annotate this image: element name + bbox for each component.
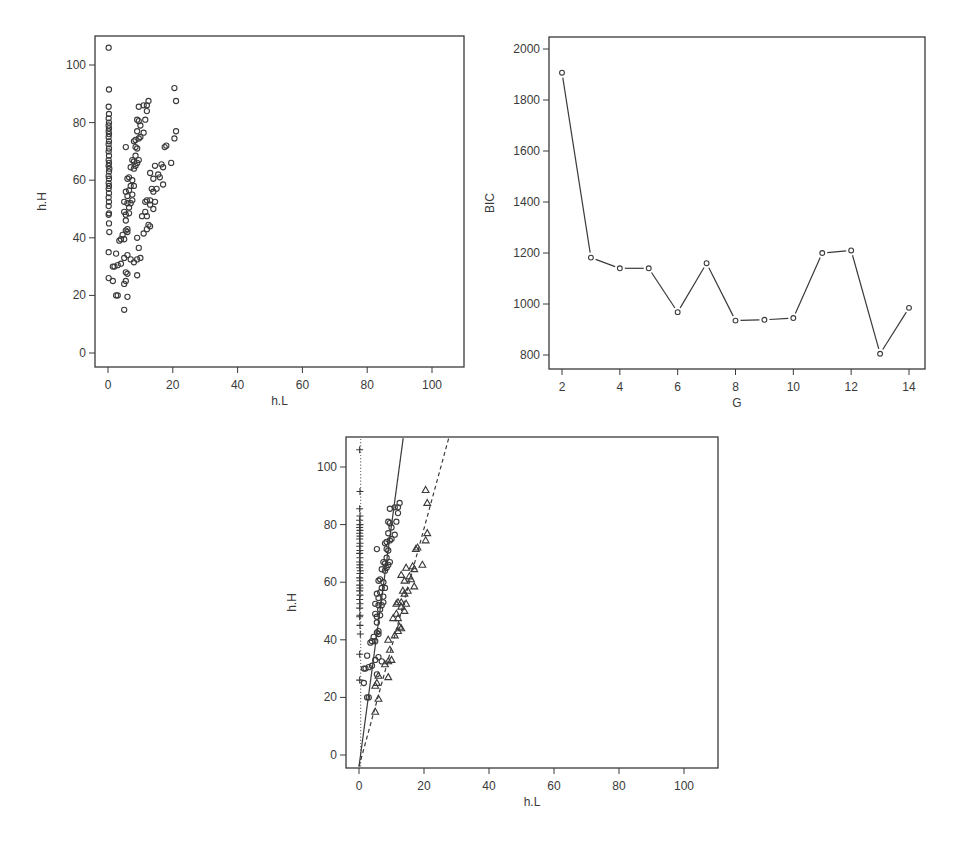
x-tick-label: 40	[231, 378, 245, 392]
data-point-circle	[131, 260, 136, 265]
y-tick-label: 80	[324, 518, 338, 532]
data-point-triangle	[422, 537, 429, 543]
bic-line-segment	[795, 258, 820, 314]
y-tick-label: 800	[520, 348, 540, 362]
data-point-circle	[791, 316, 796, 321]
bic-line-segment	[853, 255, 879, 349]
data-point-triangle	[375, 672, 382, 678]
data-point-circle	[374, 546, 379, 551]
x-tick-label: 60	[296, 378, 310, 392]
x-tick-label: 0	[356, 779, 363, 793]
x-tick-label: 8	[732, 380, 739, 394]
data-point-circle	[152, 163, 157, 168]
data-point-circle	[675, 310, 680, 315]
data-point-circle	[143, 117, 148, 122]
data-point-plus	[356, 622, 363, 629]
x-tick-label: 20	[417, 779, 431, 793]
data-point-triangle	[424, 499, 431, 505]
data-point-circle	[135, 273, 140, 278]
y-axis-label: h.H	[35, 192, 49, 211]
y-tick-label: 0	[330, 748, 337, 762]
data-point-circle	[135, 235, 140, 240]
data-point-circle	[169, 160, 174, 165]
bic-line-segment	[740, 320, 759, 321]
data-point-circle	[172, 136, 177, 141]
data-point-circle	[114, 251, 119, 256]
data-point-plus	[356, 651, 363, 658]
y-axis-label: BIC	[483, 193, 497, 213]
data-point-circle	[379, 567, 384, 572]
data-point-circle	[160, 182, 165, 187]
data-point-triangle	[424, 530, 431, 536]
scatter-raw-plot: 020406080100020406080100h.Lh.H	[0, 0, 480, 420]
y-tick-label: 60	[324, 575, 338, 589]
x-tick-label: 80	[361, 378, 375, 392]
data-point-triangle	[422, 486, 429, 492]
x-tick-label: 60	[547, 779, 561, 793]
y-tick-label: 20	[73, 288, 87, 302]
chart-bic-curve: 2468101214800100012001400160018002000GBI…	[480, 0, 954, 420]
x-tick-label: 20	[166, 378, 180, 392]
data-point-circle	[151, 176, 156, 181]
bic-line-segment	[563, 78, 590, 253]
data-point-plus	[356, 605, 363, 612]
data-point-circle	[106, 45, 111, 50]
data-point-circle	[106, 250, 111, 255]
y-tick-label: 1200	[513, 246, 540, 260]
x-axis-label: h.L	[524, 795, 541, 809]
data-point-circle	[106, 104, 111, 109]
data-point-triangle	[385, 636, 392, 642]
data-point-circle	[907, 305, 912, 310]
data-point-circle	[849, 248, 854, 253]
y-tick-label: 1400	[513, 195, 540, 209]
data-point-triangle	[390, 615, 397, 621]
y-tick-label: 0	[79, 346, 86, 360]
data-point-plus	[357, 631, 364, 638]
data-point-triangle	[419, 561, 426, 567]
bic-line-segment	[769, 318, 788, 319]
data-point-circle	[173, 129, 178, 134]
y-tick-label: 100	[66, 58, 86, 72]
x-tick-label: 6	[674, 380, 681, 394]
data-point-circle	[123, 218, 128, 223]
bic-line-segment	[709, 268, 733, 316]
data-point-circle	[365, 653, 370, 658]
data-point-circle	[122, 255, 127, 260]
y-tick-label: 1800	[513, 93, 540, 107]
y-tick-label: 20	[324, 690, 338, 704]
bic-line-segment	[596, 259, 616, 266]
data-point-circle	[138, 255, 143, 260]
data-point-triangle	[411, 583, 418, 589]
data-point-circle	[394, 519, 399, 524]
data-point-circle	[646, 266, 651, 271]
data-point-circle	[148, 170, 153, 175]
x-tick-label: 10	[787, 380, 801, 394]
data-point-circle	[617, 266, 622, 271]
data-point-circle	[152, 199, 157, 204]
data-point-circle	[131, 183, 136, 188]
x-axis-label: h.L	[271, 394, 288, 408]
y-tick-label: 1000	[513, 297, 540, 311]
bic-line-segment	[680, 268, 704, 308]
x-tick-label: 40	[482, 779, 496, 793]
data-point-plus	[356, 505, 363, 512]
x-axis-label: G	[732, 396, 741, 410]
data-point-circle	[110, 278, 115, 283]
data-point-circle	[106, 87, 111, 92]
data-point-circle	[704, 261, 709, 266]
x-tick-label: 80	[612, 779, 626, 793]
x-tick-label: 14	[902, 380, 916, 394]
scatter-clustered-plot: 020406080100020406080100h.Lh.H	[270, 420, 730, 844]
data-point-circle	[151, 206, 156, 211]
data-point-circle	[141, 231, 146, 236]
y-tick-label: 2000	[513, 42, 540, 56]
x-tick-label: 100	[674, 779, 694, 793]
data-point-circle	[361, 680, 366, 685]
data-point-triangle	[403, 564, 410, 570]
data-point-plus	[356, 446, 363, 453]
data-point-circle	[135, 257, 140, 262]
data-point-triangle	[372, 708, 379, 714]
data-point-circle	[128, 165, 133, 170]
bic-line-segment	[883, 312, 907, 349]
data-point-circle	[128, 257, 133, 262]
